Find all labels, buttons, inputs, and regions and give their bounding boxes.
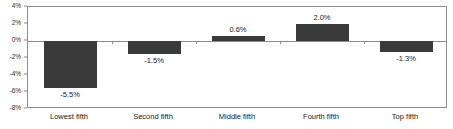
x-category-label: Lowest fifth xyxy=(50,113,88,121)
x-category-label: Top fifth xyxy=(392,113,418,121)
x-category-label: Middle fifth xyxy=(219,113,255,121)
bar-value-label: -1.3% xyxy=(396,55,416,63)
y-tick-label: 4% xyxy=(12,3,21,10)
bar-value-label: -1.5% xyxy=(144,57,164,65)
bar xyxy=(128,41,181,54)
x-tick-mark xyxy=(364,41,365,44)
bar-value-label: -5.5% xyxy=(60,91,80,99)
x-category-label: Second fifth xyxy=(133,113,173,121)
y-axis: 4%2%0%-2%-4%-6%-8% xyxy=(0,0,25,129)
x-tick-mark xyxy=(196,41,197,44)
bar xyxy=(212,36,265,41)
y-tick-label: -4% xyxy=(10,71,21,78)
y-tick-label: 0% xyxy=(12,37,21,44)
y-tick-label: -2% xyxy=(10,54,21,61)
y-tick-label: 2% xyxy=(12,20,21,27)
bar xyxy=(380,41,433,52)
bar xyxy=(44,41,97,88)
x-axis: Lowest fifthSecond fifthMiddle fifthFour… xyxy=(27,113,447,127)
bar-chart: 4%2%0%-2%-4%-6%-8% -5.5%-1.5%0.6%2.0%-1.… xyxy=(0,0,453,129)
bar-value-label: 2.0% xyxy=(313,14,330,22)
plot-area: -5.5%-1.5%0.6%2.0%-1.3% xyxy=(27,6,447,108)
y-tick-label: -6% xyxy=(10,88,21,95)
x-category-label: Fourth fifth xyxy=(303,113,339,121)
x-tick-mark xyxy=(280,41,281,44)
bar-value-label: 0.6% xyxy=(229,26,246,34)
x-tick-mark xyxy=(112,41,113,44)
bar xyxy=(296,24,349,41)
y-tick-label: -8% xyxy=(10,105,21,112)
